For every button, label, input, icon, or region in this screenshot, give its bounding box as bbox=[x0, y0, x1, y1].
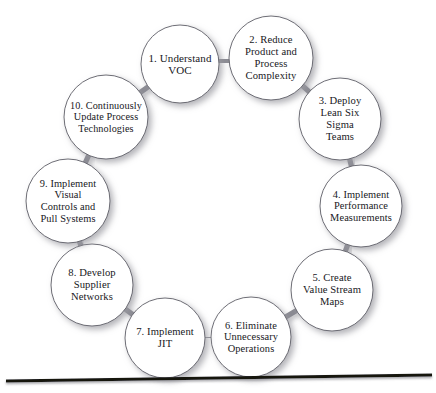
cycle-node-5[interactable] bbox=[291, 249, 373, 331]
cycle-node-9[interactable] bbox=[26, 159, 110, 243]
node-circle[interactable] bbox=[291, 249, 373, 331]
node-circle[interactable] bbox=[320, 165, 402, 247]
baseline-rule bbox=[6, 375, 432, 381]
node-circle[interactable] bbox=[51, 244, 133, 326]
cycle-node-6[interactable] bbox=[211, 297, 291, 377]
node-circle[interactable] bbox=[299, 78, 381, 160]
cycle-node-8[interactable] bbox=[51, 244, 133, 326]
node-circle[interactable] bbox=[64, 75, 148, 159]
cycle-connector bbox=[217, 61, 230, 62]
cycle-node-2[interactable] bbox=[229, 16, 313, 100]
cycle-node-7[interactable] bbox=[125, 298, 205, 378]
node-circle[interactable] bbox=[26, 159, 110, 243]
cycle-node-1[interactable] bbox=[141, 25, 219, 103]
node-circle[interactable] bbox=[125, 298, 205, 378]
node-circle[interactable] bbox=[211, 297, 291, 377]
lean-six-sigma-cycle-diagram: 1. UnderstandVOC2. ReduceProduct andProc… bbox=[0, 0, 436, 393]
cycle-connector bbox=[284, 310, 298, 318]
cycle-node-3[interactable] bbox=[299, 78, 381, 160]
node-circle-layer bbox=[26, 16, 402, 378]
node-circle[interactable] bbox=[141, 25, 219, 103]
cycle-node-4[interactable] bbox=[320, 165, 402, 247]
cycle-connector bbox=[139, 86, 150, 94]
cycle-diagram-canvas bbox=[0, 0, 436, 393]
baseline-rule-layer bbox=[6, 375, 432, 381]
node-circle[interactable] bbox=[229, 16, 313, 100]
cycle-node-10[interactable] bbox=[64, 75, 148, 159]
